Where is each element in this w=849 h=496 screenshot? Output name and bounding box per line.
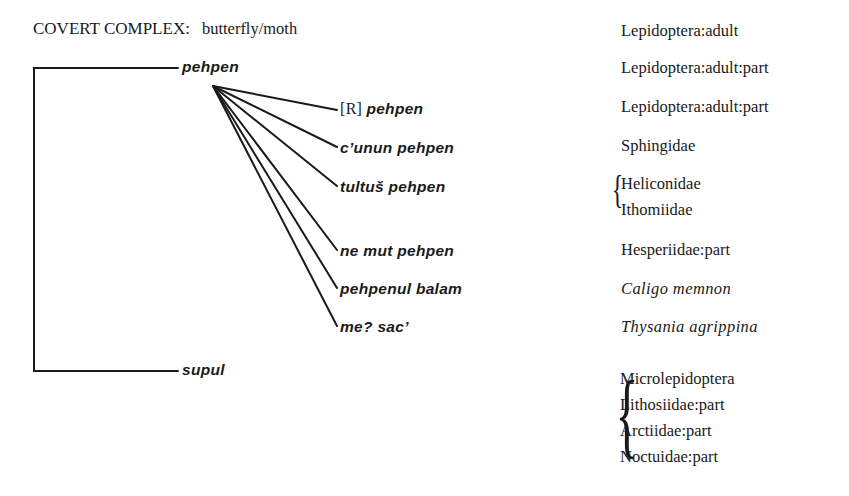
gloss-supul-4: Noctuidae:part xyxy=(620,447,718,467)
gloss-ne-mut-pehpen: Hesperiidae:part xyxy=(621,240,730,260)
term-r-pehpen: [R] pehpen xyxy=(340,100,423,118)
gloss-pehpen: Lepidoptera:adult:part xyxy=(621,58,769,78)
branch-line-tultus-pehpen xyxy=(213,86,337,186)
branch-line-me-sac xyxy=(213,86,337,326)
gloss-pehpenul-balam: Caligo memnon xyxy=(621,279,731,299)
restricted-prefix: [R] xyxy=(340,100,362,117)
term-pehpen: pehpen xyxy=(182,58,239,76)
root-bracket xyxy=(34,68,178,371)
term-cunun-pehpen: c’unun pehpen xyxy=(340,139,454,157)
gloss-tultus-1: Heliconidae xyxy=(621,174,701,194)
gloss-supul-3: Arctiidae:part xyxy=(620,421,712,441)
gloss-supul-1: Microlepidoptera xyxy=(620,369,735,389)
gloss-cunun-pehpen: Sphingidae xyxy=(621,136,695,156)
term-pehpenul-balam: pehpenul balam xyxy=(340,280,462,298)
term-tultus-pehpen: tultuš pehpen xyxy=(340,178,446,196)
gloss-root: Lepidoptera:adult xyxy=(621,21,738,41)
gloss-me-sac: Thysania agrippina xyxy=(621,317,758,337)
gloss-supul-2: Lithosiidae:part xyxy=(620,395,724,415)
gloss-r-pehpen: Lepidoptera:adult:part xyxy=(621,97,769,117)
gloss-tultus-2: Ithomiidae xyxy=(621,200,692,220)
term-ne-mut-pehpen: ne mut pehpen xyxy=(340,242,454,260)
branch-line-ne-mut-pehpen xyxy=(213,86,337,250)
term-supul: supul xyxy=(182,361,225,379)
branch-line-r-pehpen xyxy=(213,86,337,110)
term-me-sac: me? sac’ xyxy=(340,318,409,336)
term-r-pehpen-label: pehpen xyxy=(366,100,423,117)
